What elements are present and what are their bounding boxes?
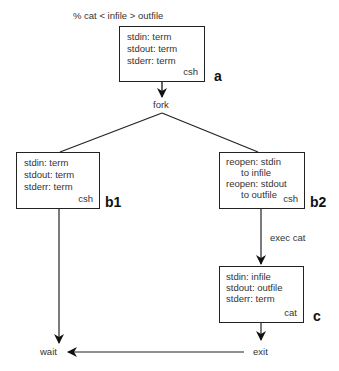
tag-a: a (214, 68, 222, 84)
box-b2-line-3: reopen: stdout (226, 178, 287, 190)
tag-c: c (313, 308, 321, 324)
exec-label: exec cat (270, 232, 305, 243)
tag-b1: b1 (105, 194, 121, 210)
box-a-line-3: stderr: term (127, 55, 176, 67)
fork-label: fork (153, 99, 169, 110)
box-b2-line-4: to outfile (241, 189, 277, 201)
box-b1-process: csh (78, 193, 93, 204)
shell-command: % cat < infile > outfile (73, 10, 163, 21)
box-b1-line-2: stdout: term (24, 169, 74, 181)
process-box-a: stdin: term stdout: term stderr: term cs… (119, 26, 205, 82)
box-c-process: cat (284, 307, 297, 318)
exit-label: exit (253, 346, 268, 357)
box-b1-line-3: stderr: term (24, 181, 73, 193)
box-c-line-2: stdout: outfile (226, 282, 283, 294)
box-a-line-2: stdout: term (127, 43, 177, 55)
box-b1-line-1: stdin: term (24, 157, 68, 169)
process-box-b2: reopen: stdin to infile reopen: stdout t… (219, 152, 305, 209)
box-a-line-1: stdin: term (127, 31, 171, 43)
box-c-line-3: stderr: term (226, 293, 275, 305)
process-box-c: stdin: infile stdout: outfile stderr: te… (219, 266, 304, 323)
box-a-process: csh (183, 66, 198, 77)
tag-b2: b2 (310, 194, 326, 210)
box-c-line-1: stdin: infile (226, 271, 271, 283)
box-b2-line-1: reopen: stdin (226, 156, 281, 168)
box-b2-process: csh (283, 193, 298, 204)
wait-label: wait (40, 346, 57, 357)
process-box-b1: stdin: term stdout: term stderr: term cs… (16, 152, 100, 209)
box-b2-line-2: to infile (241, 167, 271, 179)
